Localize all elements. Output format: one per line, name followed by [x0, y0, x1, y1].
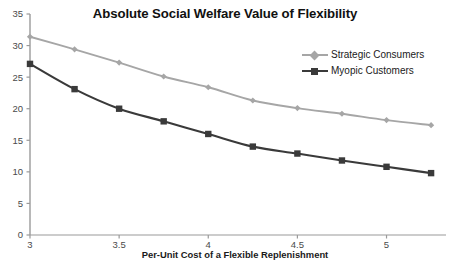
legend-swatch-myopic-customers [302, 65, 328, 77]
data-point-diamond [250, 97, 256, 103]
legend-item-myopic-customers[interactable]: Myopic Customers [302, 63, 448, 78]
y-tick-label: 15 [12, 135, 23, 146]
diamond-marker-icon [310, 50, 320, 60]
y-tick-label: 35 [12, 8, 23, 19]
y-tick-label: 10 [12, 166, 23, 177]
data-point-diamond [161, 73, 167, 79]
legend-label-myopic-customers: Myopic Customers [331, 65, 414, 76]
x-axis-ticks: 33.544.55 [27, 235, 389, 250]
data-point-diamond [116, 60, 122, 66]
y-tick-label: 5 [18, 198, 23, 209]
legend-label-strategic-consumers: Strategic Consumers [331, 49, 424, 60]
data-point-diamond [294, 105, 300, 111]
data-point-diamond [71, 46, 77, 52]
y-tick-label: 20 [12, 103, 23, 114]
chart-container: Absolute Social Welfare Value of Flexibi… [0, 0, 450, 269]
data-point-square [205, 131, 211, 137]
data-point-square [250, 143, 256, 149]
data-point-square [27, 61, 33, 67]
data-point-diamond [383, 117, 389, 123]
data-point-diamond [27, 34, 33, 40]
legend-swatch-strategic-consumers [302, 49, 328, 61]
y-tick-label: 0 [18, 229, 23, 240]
data-point-square [428, 170, 434, 176]
data-point-square [294, 150, 300, 156]
data-point-diamond [205, 84, 211, 90]
data-point-diamond [428, 122, 434, 128]
data-point-square [339, 157, 345, 163]
legend-item-strategic-consumers[interactable]: Strategic Consumers [302, 47, 448, 62]
y-axis-ticks: 05101520253035 [12, 8, 30, 240]
y-tick-label: 25 [12, 72, 23, 83]
data-point-square [71, 86, 77, 92]
plot-area: 05101520253035 33.544.55 [0, 0, 450, 269]
y-tick-label: 30 [12, 40, 23, 51]
x-axis-label: Per-Unit Cost of a Flexible Replenishmen… [30, 249, 440, 260]
data-point-square [383, 164, 389, 170]
data-point-square [160, 118, 166, 124]
square-marker-icon [311, 68, 318, 75]
data-point-square [116, 106, 122, 112]
chart-legend: Strategic Consumers Myopic Customers [302, 47, 448, 79]
data-point-diamond [339, 111, 345, 117]
